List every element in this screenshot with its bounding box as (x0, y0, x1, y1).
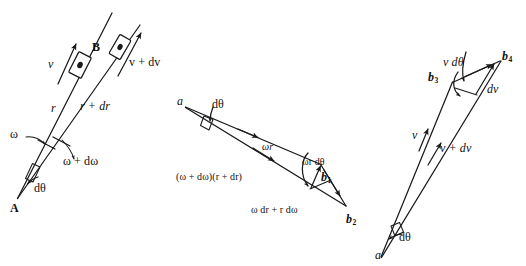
label-point-b: B (92, 41, 100, 53)
body-b-block (69, 52, 92, 79)
omega-leader (26, 137, 45, 144)
vector-omega-r-arrowhead (238, 129, 258, 138)
label-b1: b1 (321, 171, 331, 184)
label-omega-r: ωr (262, 142, 273, 152)
label-point-a: A (10, 202, 19, 214)
vector-v-plus-dv-line (382, 61, 502, 258)
label-b3-subscript: 3 (434, 76, 438, 85)
label-b1-subscript: 1 (327, 176, 331, 185)
label-dtheta-left: dθ (34, 182, 46, 194)
label-velocity-v-plus-dv: v + dv (129, 56, 160, 68)
label-radius-r: r (51, 102, 56, 114)
figure-root: A B v v + dv r r + dr ω ω + dω dθ a dθ ω… (0, 0, 526, 266)
label-velocity-v: v (48, 58, 53, 70)
label-dtheta-middle: dθ (212, 98, 224, 110)
label-v-right: v (412, 129, 417, 141)
label-b4: b4 (502, 50, 512, 63)
label-b4-subscript: 4 (508, 55, 512, 64)
right-inner-angle-arc (454, 72, 460, 96)
label-v-plus-dv-right: v + dv (440, 142, 471, 154)
label-omega: ω (10, 128, 18, 140)
label-b3: b3 (428, 71, 438, 84)
label-omega-plus-domega: ω + dω (63, 155, 98, 167)
label-apex-a-right: a (375, 249, 381, 261)
label-omega-r-dtheta: ωr dθ (302, 157, 325, 167)
label-v-dtheta: v dθ (443, 56, 464, 68)
label-omega-domega-r-dr: (ω + dω)(r + dr) (176, 172, 242, 182)
diagram-artwork (0, 0, 526, 266)
label-v-plus-dv-text: v + dv (129, 55, 160, 69)
label-radius-r-plus-dr: r + dr (80, 100, 110, 112)
label-apex-a-middle: a (177, 95, 183, 107)
label-b2: b2 (346, 213, 356, 226)
vector-v-line (381, 82, 453, 257)
label-omega-dr-plus-r-domega: ω dr + r dω (251, 205, 298, 215)
label-b2-subscript: 2 (352, 218, 356, 227)
label-dv: dv (487, 83, 499, 95)
vector-v-arrowhead (419, 129, 428, 151)
label-dtheta-right: dθ (399, 231, 411, 243)
body-b-prime-block (109, 34, 131, 59)
